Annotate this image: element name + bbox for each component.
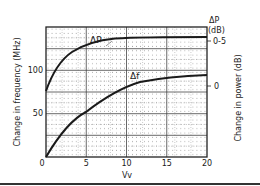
bottom-divider xyxy=(0,183,260,185)
y-tick-100: 100 xyxy=(28,66,43,75)
dp-unit-line2: (dB) xyxy=(208,26,225,35)
x-tick-20: 20 xyxy=(202,159,212,168)
y-left-axis-label: Change in frequency (MHz) xyxy=(13,37,22,146)
x-tick-5: 5 xyxy=(84,159,89,168)
x-axis-label: Vv xyxy=(122,171,132,180)
y-right-tick-0: 0 xyxy=(214,82,219,91)
y-right-tick-0-5: 0-5 xyxy=(213,37,226,46)
x-ticks: 0 5 10 15 20 xyxy=(39,159,212,168)
curve-label-dp: ΔP xyxy=(90,35,102,45)
x-tick-0: 0 xyxy=(39,159,44,168)
figure: ΔP Δf 100 50 0 5 10 15 20 Vv ΔP (dB) 0-5… xyxy=(0,0,260,186)
plot-area xyxy=(46,27,207,157)
y-right-ticks: ΔP (dB) 0-5 0 xyxy=(208,16,226,91)
dp-unit-line1: ΔP xyxy=(209,16,219,25)
x-tick-15: 15 xyxy=(162,159,172,168)
y-left-ticks: 100 50 xyxy=(28,66,43,118)
x-tick-10: 10 xyxy=(121,159,131,168)
y-right-axis-label: Change in power (dB) xyxy=(234,54,243,141)
y-tick-50: 50 xyxy=(33,109,43,118)
chart-svg: ΔP Δf 100 50 0 5 10 15 20 Vv ΔP (dB) 0-5… xyxy=(0,0,260,186)
curve-label-df: Δf xyxy=(130,71,140,81)
